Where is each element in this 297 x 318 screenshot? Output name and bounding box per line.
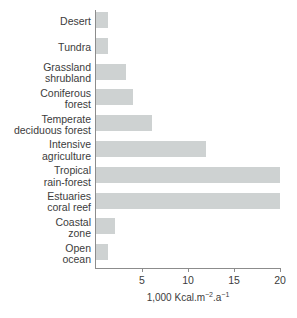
bar-row xyxy=(96,165,280,188)
bar-row xyxy=(96,191,280,214)
category-label: Intensive agriculture xyxy=(0,139,91,162)
plot-area xyxy=(96,10,280,268)
bar xyxy=(96,89,133,105)
bar-row xyxy=(96,216,280,239)
x-tick-mark xyxy=(188,268,189,272)
bar-row xyxy=(96,242,280,265)
x-axis-title: 1,000 Kcal.m−2.a−1 xyxy=(96,292,280,303)
bar xyxy=(96,12,108,28)
bar xyxy=(96,193,280,209)
bar xyxy=(96,64,126,80)
bar-row xyxy=(96,113,280,136)
bar xyxy=(96,244,108,260)
category-label: Temperate deciduous forest xyxy=(0,114,91,137)
x-tick-label: 15 xyxy=(219,274,249,286)
category-label: Coniferous forest xyxy=(0,88,91,111)
x-axis-title-prefix: 1,000 Kcal.m xyxy=(147,292,205,303)
category-label: Desert xyxy=(0,16,91,28)
category-label: Tundra xyxy=(0,42,91,54)
x-tick-mark xyxy=(234,268,235,272)
category-axis-labels: DesertTundraGrassland shrublandConiferou… xyxy=(0,10,91,268)
category-label: Open ocean xyxy=(0,243,91,266)
x-tick-label: 20 xyxy=(265,274,295,286)
bar xyxy=(96,38,108,54)
x-tick-mark xyxy=(142,268,143,272)
bar-rows xyxy=(96,10,280,268)
bar xyxy=(96,141,206,157)
x-tick-label: 5 xyxy=(127,274,157,286)
bar xyxy=(96,115,152,131)
bar-row xyxy=(96,10,280,33)
x-axis-title-sup-2: −1 xyxy=(221,291,229,298)
category-label: Tropical rain-forest xyxy=(0,165,91,188)
category-label: Grassland shrubland xyxy=(0,62,91,85)
category-label: Coastal zone xyxy=(0,217,91,240)
bar xyxy=(96,218,115,234)
x-axis-title-sup-1: −2 xyxy=(205,291,213,298)
bar-row xyxy=(96,139,280,162)
bar xyxy=(96,167,280,183)
bar-row xyxy=(96,87,280,110)
x-tick-mark xyxy=(280,268,281,272)
bar-chart: DesertTundraGrassland shrublandConiferou… xyxy=(0,0,297,318)
bar-row xyxy=(96,62,280,85)
category-label: Estuaries coral reef xyxy=(0,191,91,214)
x-tick-label: 10 xyxy=(173,274,203,286)
bar-row xyxy=(96,36,280,59)
